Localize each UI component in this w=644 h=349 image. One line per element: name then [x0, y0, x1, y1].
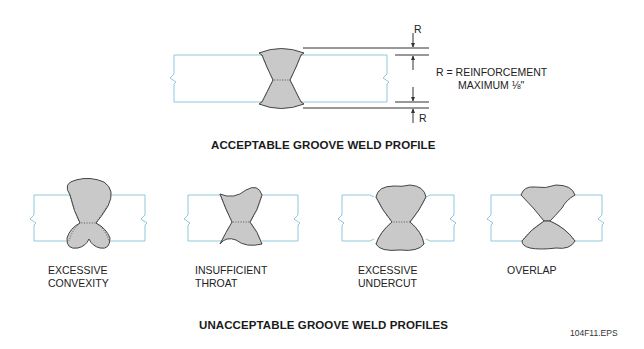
- excessive-undercut-diagram: [338, 185, 456, 250]
- weld-profiles-diagram: [0, 0, 644, 349]
- dimension-arrows: [411, 33, 415, 123]
- reinforcement-note-line1: R = REINFORCEMENT: [436, 66, 547, 79]
- profile-label-excessive-convexity: EXCESSIVE CONVEXITY: [48, 264, 109, 290]
- profile-label-overlap: OVERLAP: [507, 264, 557, 277]
- label-line2: UNDERCUT: [358, 277, 418, 290]
- profile-label-insufficient-throat: INSUFFICIENT THROAT: [195, 264, 267, 290]
- unacceptable-heading: UNACCEPTABLE GROOVE WELD PROFILES: [199, 319, 448, 331]
- acceptable-heading: ACCEPTABLE GROOVE WELD PROFILE: [211, 139, 436, 151]
- acceptable-weld-diagram: [170, 33, 429, 123]
- label-line1: OVERLAP: [507, 264, 557, 277]
- weld-bead: [259, 49, 304, 109]
- left-plate: [170, 55, 262, 102]
- label-line1: INSUFFICIENT: [195, 264, 267, 277]
- excessive-convexity-diagram: [30, 178, 147, 248]
- dimension-label-r-top: R: [414, 23, 422, 36]
- insufficient-throat-diagram: [184, 187, 300, 245]
- right-plate: [301, 55, 389, 102]
- overlap-diagram: [487, 185, 604, 249]
- label-line2: CONVEXITY: [48, 277, 109, 290]
- label-line1: EXCESSIVE: [358, 264, 418, 277]
- profile-label-excessive-undercut: EXCESSIVE UNDERCUT: [358, 264, 418, 290]
- reinforcement-note-line2: MAXIMUM ⅛": [458, 79, 524, 92]
- label-line1: EXCESSIVE: [48, 264, 109, 277]
- label-line2: THROAT: [195, 277, 267, 290]
- figure-id: 104F11.EPS: [570, 328, 618, 338]
- dimension-label-r-bottom: R: [419, 112, 427, 125]
